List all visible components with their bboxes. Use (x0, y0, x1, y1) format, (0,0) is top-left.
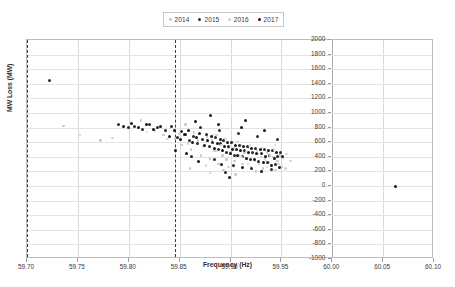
data-point (263, 148, 266, 151)
data-point (244, 119, 247, 122)
data-point (234, 173, 237, 176)
y-tick-mark (328, 229, 331, 230)
data-point (266, 151, 269, 154)
data-point (225, 158, 228, 161)
data-point (213, 158, 216, 161)
data-point (242, 145, 245, 148)
data-point (168, 135, 171, 138)
threshold-line (175, 40, 176, 257)
y-tick-mark (328, 68, 331, 69)
y-tick-label: -400 (291, 210, 325, 217)
gridline-horizontal (27, 201, 432, 202)
data-point (284, 167, 286, 169)
data-point (246, 145, 249, 148)
y-tick-label: 200 (291, 166, 325, 173)
data-point (130, 122, 133, 125)
data-point (219, 138, 222, 141)
legend-item-2016[interactable]: 2016 (228, 16, 248, 23)
data-point (195, 136, 198, 139)
data-point (255, 152, 258, 155)
y-tick-label: 800 (291, 123, 325, 130)
y-tick-label: -1000 (291, 254, 325, 261)
data-point (253, 158, 256, 161)
data-point (198, 132, 201, 135)
data-point (270, 164, 273, 167)
y-tick-mark (328, 243, 331, 244)
y-tick-label: 600 (291, 137, 325, 144)
data-point (213, 150, 216, 153)
data-point (263, 129, 266, 132)
data-point (162, 134, 165, 137)
data-point (237, 132, 240, 135)
x-axis-title: Frequency (Hz) (0, 261, 455, 268)
data-point (221, 149, 224, 152)
legend-marker-icon (258, 18, 261, 21)
data-point (276, 160, 279, 163)
gridline-vertical (129, 40, 130, 257)
data-point (220, 144, 222, 146)
data-point (233, 160, 236, 163)
data-point (190, 148, 193, 151)
data-point (164, 129, 167, 132)
y-tick-label: 0 (291, 181, 325, 188)
scatter-chart: 2014201520162017 59.7059.7559.8059.8559.… (0, 0, 455, 287)
y-tick-mark (328, 258, 331, 259)
data-point (262, 161, 265, 164)
data-point (220, 163, 223, 166)
data-point (189, 167, 192, 170)
data-point (111, 137, 113, 139)
data-point (183, 133, 186, 136)
data-point (247, 151, 250, 154)
data-point (252, 153, 255, 156)
data-point (195, 137, 197, 139)
data-point (262, 167, 265, 170)
data-point (256, 135, 259, 138)
data-point (253, 159, 255, 161)
y-tick-label: 1200 (291, 93, 325, 100)
data-point (261, 147, 263, 149)
data-point (146, 131, 148, 133)
data-point (250, 166, 253, 169)
data-point (258, 163, 261, 166)
data-point (166, 138, 168, 140)
legend-label: 2014 (175, 16, 190, 23)
y-tick-label: -200 (291, 196, 325, 203)
y-tick-label: -800 (291, 239, 325, 246)
gridline-horizontal (27, 186, 432, 187)
data-point (256, 150, 259, 153)
chart-legend: 2014201520162017 (163, 12, 284, 27)
data-point (180, 144, 183, 147)
legend-item-2015[interactable]: 2015 (198, 16, 219, 23)
gridline-horizontal (27, 157, 432, 158)
data-point (266, 161, 269, 164)
data-point (243, 149, 246, 152)
y-tick-label: 1800 (291, 50, 325, 57)
data-point (79, 134, 81, 136)
data-point (208, 145, 211, 148)
data-point (210, 135, 213, 138)
data-point (271, 149, 274, 152)
gridline-vertical (180, 40, 181, 257)
data-point (205, 133, 208, 136)
data-point (187, 129, 190, 132)
y-tick-label: 1400 (291, 79, 325, 86)
y-tick-mark (328, 83, 331, 84)
gridline-vertical (281, 40, 282, 257)
data-point (214, 136, 217, 139)
data-point (234, 144, 237, 147)
data-point (235, 148, 238, 151)
y-tick-label: -600 (291, 225, 325, 232)
legend-item-2014[interactable]: 2014 (169, 16, 189, 23)
data-point (148, 123, 151, 126)
data-point (192, 135, 195, 138)
data-point (268, 161, 271, 164)
data-point (247, 163, 249, 165)
data-point (250, 147, 253, 150)
data-point (227, 147, 230, 150)
legend-item-2017[interactable]: 2017 (258, 16, 279, 23)
y-tick-mark (328, 141, 331, 142)
data-point (260, 152, 263, 155)
y-tick-mark (328, 200, 331, 201)
data-point (250, 167, 253, 170)
data-point (267, 149, 270, 152)
